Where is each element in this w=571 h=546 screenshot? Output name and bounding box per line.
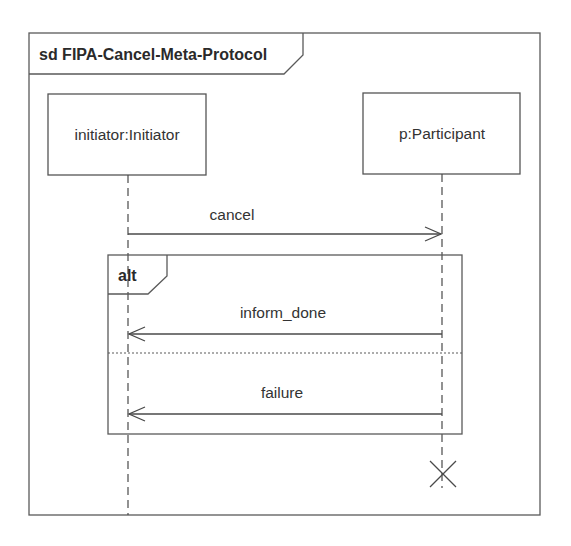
alt-fragment: alt — [108, 255, 462, 434]
alt-fragment-tab — [108, 255, 167, 294]
message-inform-done: inform_done — [129, 304, 442, 341]
lifeline-label-initiator: initiator:Initiator — [74, 126, 179, 143]
destroy-x-icon — [430, 461, 456, 487]
message-label-cancel: cancel — [210, 206, 255, 223]
message-label-failure: failure — [261, 384, 303, 401]
alt-operator-label: alt — [118, 267, 137, 284]
lifeline-label-participant: p:Participant — [399, 125, 486, 142]
lifeline-participant: p:Participant — [363, 93, 520, 488]
sequence-diagram: sd FIPA-Cancel-Meta-Protocol initiator:I… — [0, 0, 571, 546]
message-label-inform-done: inform_done — [240, 304, 326, 321]
lifeline-initiator: initiator:Initiator — [48, 94, 206, 515]
message-cancel: cancel — [128, 206, 441, 241]
sd-frame-title: sd FIPA-Cancel-Meta-Protocol — [39, 46, 267, 63]
message-failure: failure — [129, 384, 442, 421]
